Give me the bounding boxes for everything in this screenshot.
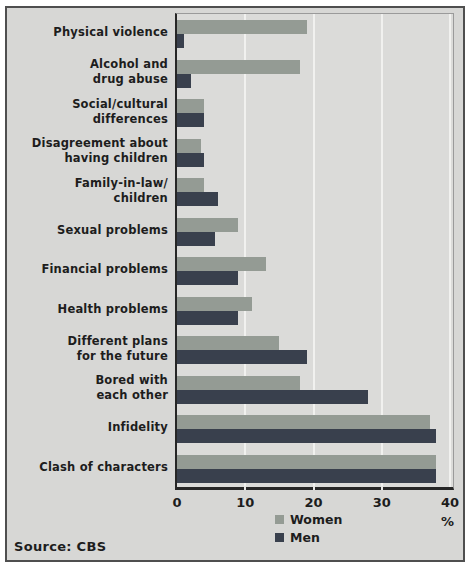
category-row-11: Clash of characters bbox=[9, 448, 171, 488]
bar-women-0 bbox=[177, 20, 307, 34]
bar-women-1 bbox=[177, 60, 300, 74]
x-tick-label-0: 0 bbox=[159, 495, 195, 510]
bar-women-2 bbox=[177, 99, 204, 113]
bar-men-9 bbox=[177, 390, 368, 404]
category-label: Social/culturaldifferences bbox=[72, 97, 171, 127]
bar-men-2 bbox=[177, 113, 204, 127]
legend-swatch-women bbox=[275, 515, 284, 524]
bar-men-4 bbox=[177, 192, 218, 206]
gridline-40 bbox=[449, 14, 451, 487]
legend-item-men: Men bbox=[275, 530, 342, 545]
bar-men-5 bbox=[177, 232, 215, 246]
category-labels-column: Physical violenceAlcohol anddrug abuseSo… bbox=[9, 13, 171, 490]
bar-women-10 bbox=[177, 415, 430, 429]
category-label: Physical violence bbox=[53, 25, 171, 40]
bar-women-5 bbox=[177, 218, 238, 232]
category-row-9: Bored witheach other bbox=[9, 369, 171, 409]
category-row-0: Physical violence bbox=[9, 13, 171, 53]
category-row-1: Alcohol anddrug abuse bbox=[9, 53, 171, 93]
bar-men-6 bbox=[177, 271, 238, 285]
bar-women-8 bbox=[177, 336, 279, 350]
tick-notch-30 bbox=[381, 486, 383, 490]
legend: WomenMen bbox=[275, 512, 342, 545]
category-row-6: Financial problems bbox=[9, 250, 171, 290]
category-row-3: Disagreement abouthaving children bbox=[9, 132, 171, 172]
bar-women-11 bbox=[177, 455, 436, 469]
category-label: Clash of characters bbox=[39, 460, 171, 475]
bar-women-3 bbox=[177, 139, 201, 153]
scanned-bar-chart-page: Physical violenceAlcohol anddrug abuseSo… bbox=[0, 0, 471, 570]
category-label: Family-in-law/children bbox=[75, 176, 171, 206]
source-note: Source: CBS bbox=[14, 539, 106, 554]
plot-area bbox=[175, 13, 454, 490]
x-tick-label-10: 10 bbox=[227, 495, 263, 510]
category-label: Infidelity bbox=[108, 420, 171, 435]
x-axis-unit-label: % bbox=[422, 514, 454, 529]
bar-men-7 bbox=[177, 311, 238, 325]
bar-men-11 bbox=[177, 469, 436, 483]
category-label: Financial problems bbox=[41, 262, 171, 277]
bar-men-10 bbox=[177, 429, 436, 443]
legend-label: Men bbox=[290, 530, 320, 545]
category-label: Alcohol anddrug abuse bbox=[90, 57, 171, 87]
category-row-8: Different plansfor the future bbox=[9, 329, 171, 369]
bar-women-4 bbox=[177, 178, 204, 192]
category-row-7: Health problems bbox=[9, 290, 171, 330]
category-label: Sexual problems bbox=[57, 223, 171, 238]
x-axis: 010203040 bbox=[7, 495, 463, 513]
x-tick-label-30: 30 bbox=[364, 495, 400, 510]
category-row-5: Sexual problems bbox=[9, 211, 171, 251]
category-label: Bored witheach other bbox=[95, 373, 171, 403]
tick-notch-20 bbox=[313, 486, 315, 490]
bar-men-8 bbox=[177, 350, 307, 364]
category-label: Health problems bbox=[58, 302, 171, 317]
x-tick-label-20: 20 bbox=[296, 495, 332, 510]
tick-notch-10 bbox=[244, 486, 246, 490]
bar-women-9 bbox=[177, 376, 300, 390]
category-row-10: Infidelity bbox=[9, 408, 171, 448]
bar-women-7 bbox=[177, 297, 252, 311]
category-label: Disagreement abouthaving children bbox=[32, 136, 171, 166]
chart-frame: Physical violenceAlcohol anddrug abuseSo… bbox=[5, 6, 465, 562]
x-tick-label-40: 40 bbox=[432, 495, 468, 510]
bar-men-0 bbox=[177, 34, 184, 48]
category-label: Different plansfor the future bbox=[68, 334, 171, 364]
bar-men-3 bbox=[177, 153, 204, 167]
category-row-4: Family-in-law/children bbox=[9, 171, 171, 211]
legend-label: Women bbox=[290, 512, 342, 527]
category-row-2: Social/culturaldifferences bbox=[9, 92, 171, 132]
legend-swatch-men bbox=[275, 533, 284, 542]
bar-women-6 bbox=[177, 257, 266, 271]
legend-item-women: Women bbox=[275, 512, 342, 527]
bar-men-1 bbox=[177, 74, 191, 88]
